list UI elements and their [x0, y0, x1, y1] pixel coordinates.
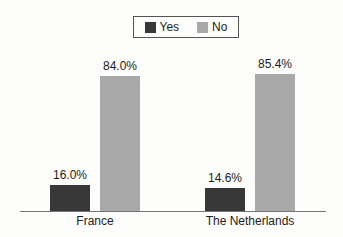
bar-wrap-netherlands-no: 85.4%: [255, 58, 295, 212]
bar-wrap-france-no: 84.0%: [100, 60, 140, 211]
category-label-france: France: [30, 215, 160, 228]
value-label-netherlands-yes: 14.6%: [208, 172, 242, 185]
bar-wrap-netherlands-yes: 14.6%: [205, 172, 245, 212]
bar-group-france: 16.0% 84.0%: [50, 50, 140, 211]
legend-label-yes: Yes: [160, 21, 180, 33]
plot-area: 16.0% 84.0% 14.6% 85.4%: [0, 50, 343, 211]
legend-swatch-no: [197, 22, 208, 33]
bar-france-yes: [50, 185, 90, 211]
legend-item-yes: Yes: [145, 21, 180, 33]
value-label-netherlands-no: 85.4%: [258, 58, 292, 71]
bar-netherlands-yes: [205, 188, 245, 212]
bar-group-netherlands: 14.6% 85.4%: [205, 50, 295, 211]
value-label-france-no: 84.0%: [103, 60, 137, 73]
legend-swatch-yes: [145, 22, 156, 33]
bar-chart: Yes No 16.0% 84.0% 14.6% 85.4%: [0, 0, 343, 237]
value-label-france-yes: 16.0%: [53, 169, 87, 182]
x-axis-line: [20, 211, 326, 212]
bar-wrap-france-yes: 16.0%: [50, 169, 90, 211]
legend: Yes No: [133, 16, 239, 38]
legend-label-no: No: [212, 21, 227, 33]
bar-france-no: [100, 76, 140, 211]
category-label-netherlands: The Netherlands: [185, 215, 315, 228]
legend-item-no: No: [197, 21, 227, 33]
bar-netherlands-no: [255, 74, 295, 212]
